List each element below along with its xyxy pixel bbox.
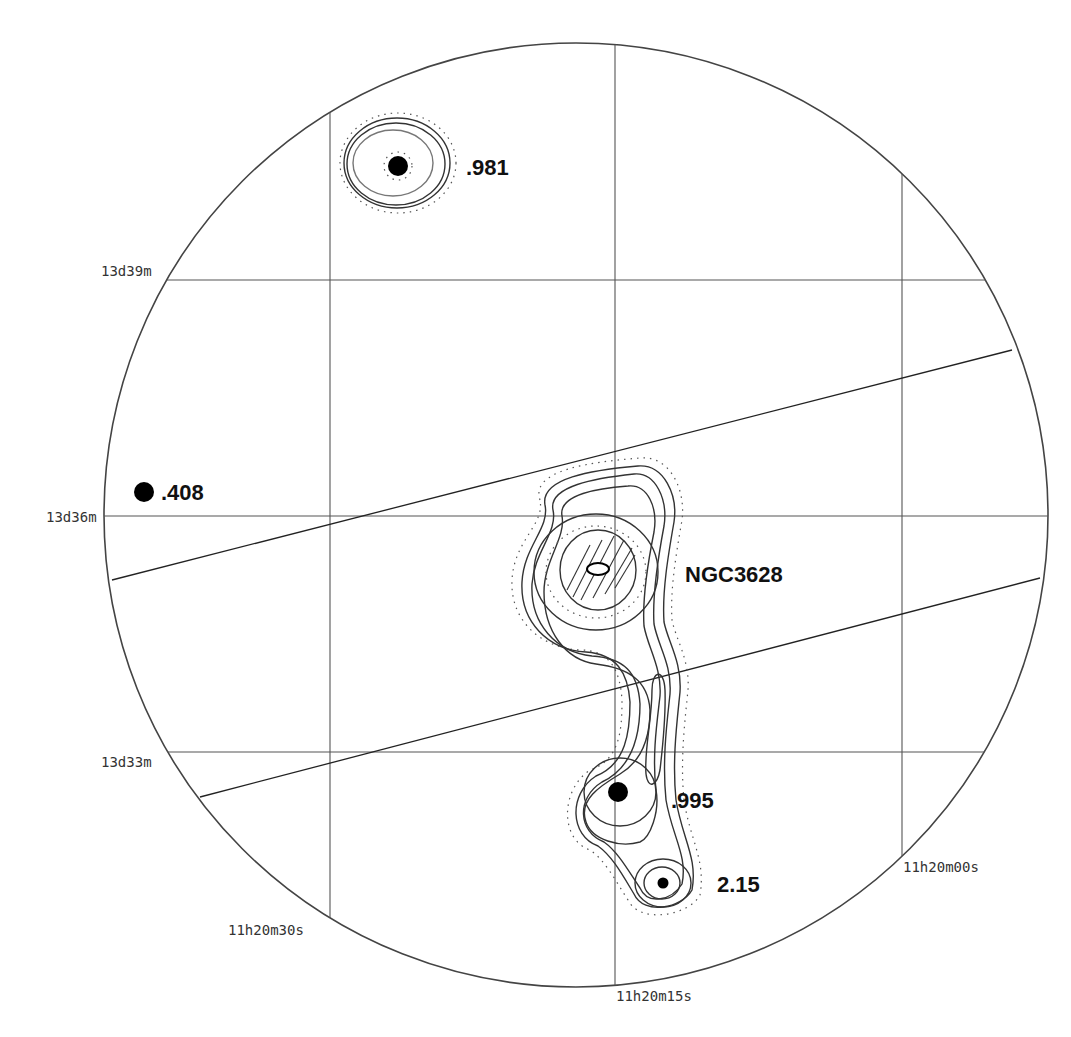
- field-of-view-circle: [104, 43, 1048, 987]
- source-label-ngc3628: NGC3628: [685, 562, 783, 587]
- source-label-408: .408: [161, 480, 204, 505]
- source-marker-408: [134, 482, 154, 502]
- source-label-981: .981: [466, 155, 509, 180]
- slit-line-upper: [112, 350, 1012, 580]
- galaxy-ngc3628: [512, 458, 701, 915]
- finding-chart: .981 .408 NGC3628 .995 2.15: [0, 0, 1071, 1037]
- source-marker: [388, 156, 408, 176]
- galaxy-nucleus-marker: [587, 563, 609, 575]
- source-label-995: .995: [671, 788, 714, 813]
- source-marker: [658, 878, 669, 889]
- slit-line-lower: [200, 578, 1040, 797]
- dec-label-33m: 13d33m: [101, 754, 152, 770]
- ra-label-00s: 11h20m00s: [903, 859, 979, 875]
- source-marker: [608, 782, 628, 802]
- source-label-215: 2.15: [717, 872, 760, 897]
- ra-label-15s: 11h20m15s: [616, 988, 692, 1004]
- dec-label-36m: 13d36m: [46, 509, 97, 525]
- source-981: [340, 113, 456, 213]
- dec-label-39m: 13d39m: [101, 263, 152, 279]
- ra-label-30s: 11h20m30s: [228, 922, 304, 938]
